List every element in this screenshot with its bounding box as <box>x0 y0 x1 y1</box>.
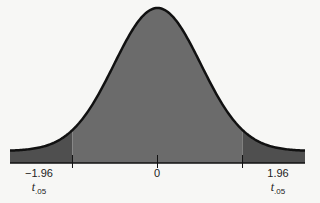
tick-label-neg-1-96: −1.96 <box>25 167 53 179</box>
tick-label-zero: 0 <box>154 167 160 179</box>
critical-label-right: t.05 <box>271 180 285 196</box>
tick-label-pos-1-96: 1.96 <box>267 167 288 179</box>
acceptance-region <box>72 8 242 163</box>
critical-label-left: t.05 <box>32 180 46 196</box>
